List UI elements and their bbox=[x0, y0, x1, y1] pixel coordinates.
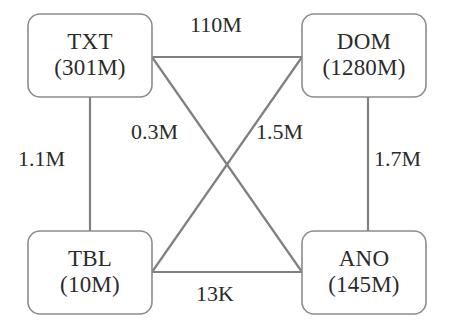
diagram-canvas: TXT (301M) DOM (1280M) TBL (10M) ANO (14… bbox=[0, 0, 451, 328]
edge-label-txt-tbl: 1.1M bbox=[18, 148, 65, 170]
edge-label-txt-dom: 110M bbox=[190, 14, 242, 36]
edge-label-dom-ano: 1.7M bbox=[374, 148, 421, 170]
node-box-ano[interactable] bbox=[302, 231, 426, 314]
node-box-dom[interactable] bbox=[302, 14, 426, 97]
node-box-tbl[interactable] bbox=[28, 231, 152, 314]
edge-label-dom-tbl: 1.5M bbox=[256, 121, 303, 143]
edge-label-tbl-ano: 13K bbox=[196, 283, 234, 305]
edge-label-txt-ano: 0.3M bbox=[131, 121, 178, 143]
node-box-txt[interactable] bbox=[28, 14, 152, 97]
